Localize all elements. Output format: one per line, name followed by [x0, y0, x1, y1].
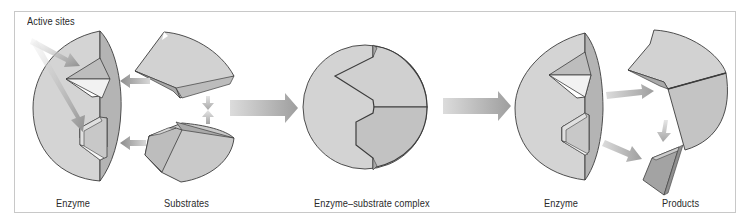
- reaction-arrow-2: [443, 91, 511, 121]
- label-substrates: Substrates: [164, 197, 209, 209]
- enzyme-left: [33, 31, 121, 181]
- product-small: [643, 145, 683, 195]
- label-enzyme-left: Enzyme: [56, 197, 90, 209]
- enzyme-right: [515, 33, 603, 180]
- release-arrows: [602, 84, 671, 162]
- label-complex: Enzyme–substrate complex: [314, 197, 430, 209]
- reaction-arrow-1: [230, 93, 298, 123]
- substrate-bottom: [145, 122, 234, 182]
- label-enzyme-right: Enzyme: [544, 197, 578, 209]
- enzyme-substrate-complex: [303, 45, 427, 170]
- substrate-top: [135, 32, 234, 98]
- enzyme-diagram-art: [0, 0, 753, 222]
- label-products: Products: [662, 197, 699, 209]
- label-active-sites: Active sites: [27, 15, 75, 27]
